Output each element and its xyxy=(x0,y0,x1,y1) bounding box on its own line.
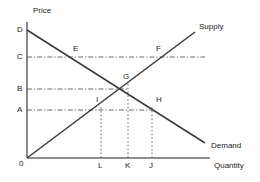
price-tick-b: B xyxy=(17,85,22,93)
price-tick-d: D xyxy=(17,26,23,34)
point-label-h: H xyxy=(156,96,162,104)
supply-demand-chart: Price Quantity 0 D C B A L K J E F G I H… xyxy=(0,0,260,182)
point-label-e: E xyxy=(73,45,78,53)
point-label-g: G xyxy=(123,73,129,81)
y-axis-title: Price xyxy=(33,7,51,15)
quantity-tick-l: L xyxy=(98,162,102,170)
point-label-i: I xyxy=(96,96,98,104)
price-tick-c: C xyxy=(17,53,23,61)
point-label-f: F xyxy=(156,45,161,53)
price-tick-a: A xyxy=(17,106,22,114)
demand-curve-label: Demand xyxy=(211,142,241,150)
origin-label: 0 xyxy=(19,160,23,168)
quantity-tick-k: K xyxy=(125,162,130,170)
supply-curve xyxy=(27,32,195,158)
demand-curve xyxy=(27,30,205,143)
x-axis-title: Quantity xyxy=(214,162,244,170)
quantity-tick-j: J xyxy=(149,162,153,170)
supply-curve-label: Supply xyxy=(199,23,223,31)
